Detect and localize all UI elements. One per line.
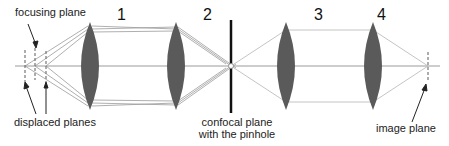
- lens-2: [167, 22, 185, 110]
- pinhole: [229, 64, 234, 69]
- lens-4: [364, 22, 382, 110]
- lens-number-4: 4: [377, 6, 386, 24]
- displaced-planes-label: displaced planes: [14, 116, 96, 128]
- focusing-plane-label: focusing plane: [15, 6, 86, 18]
- image-plane-label: image plane: [376, 122, 436, 134]
- lens-number-3: 3: [314, 6, 323, 24]
- confocal-plane-label: confocal plane with the pinhole: [192, 116, 282, 140]
- lens-3: [277, 22, 295, 110]
- lens-number-2: 2: [203, 6, 212, 24]
- lens-number-1: 1: [117, 6, 126, 24]
